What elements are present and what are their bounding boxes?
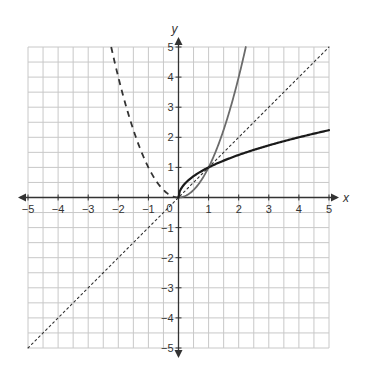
x-tick-label: 1 — [206, 203, 212, 215]
x-tick-label: −5 — [22, 203, 35, 215]
x-axis-label: x — [342, 191, 350, 205]
x-tick-label: 2 — [236, 203, 242, 215]
y-tick-label: 5 — [167, 41, 173, 53]
x-axis-left-arrow-icon — [18, 194, 26, 202]
x-tick-label: −1 — [142, 203, 155, 215]
x-tick-label: −2 — [112, 203, 125, 215]
y-axis-label: y — [171, 22, 179, 36]
y-tick-label: −4 — [161, 312, 174, 324]
function-graph: −5−4−3−2−112345−5−4−3−2−112345 x y 0 — [0, 0, 370, 386]
y-tick-label: −3 — [161, 282, 174, 294]
origin-label: 0 — [167, 202, 173, 214]
y-axis-up-arrow-icon — [175, 37, 183, 45]
y-tick-label: 1 — [167, 161, 173, 173]
y-tick-label: 4 — [167, 71, 173, 83]
y-tick-label: −1 — [161, 222, 174, 234]
x-tick-label: −4 — [52, 203, 65, 215]
x-axis-right-arrow-icon — [331, 194, 339, 202]
x-tick-label: 3 — [266, 203, 272, 215]
x-tick-label: −3 — [82, 203, 95, 215]
y-tick-label: −5 — [161, 342, 174, 354]
y-tick-label: 2 — [167, 131, 173, 143]
y-tick-label: 3 — [167, 101, 173, 113]
x-tick-label: 5 — [326, 203, 332, 215]
x-tick-label: 4 — [296, 203, 302, 215]
y-tick-label: −2 — [161, 252, 174, 264]
y-axis-down-arrow-icon — [175, 350, 183, 358]
